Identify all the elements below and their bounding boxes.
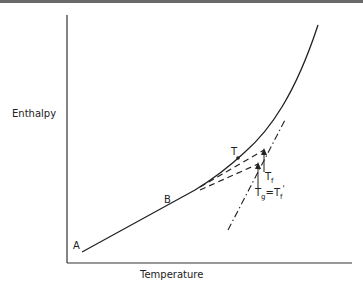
x-axis-label: Temperature [139, 269, 203, 280]
label-a: A [73, 240, 80, 251]
label-t: T [230, 146, 238, 157]
label-b: B [164, 194, 171, 205]
enthalpy-temperature-diagram: Enthalpy Temperature A B T Tf Tg=Tf' [0, 0, 363, 287]
dashed-line-tg [200, 164, 258, 190]
label-tg-eq-tf-prime: Tg=Tf' [254, 185, 285, 201]
label-tf: Tf [264, 171, 274, 185]
enthalpy-curve [82, 25, 318, 252]
y-axis-label: Enthalpy [12, 108, 56, 119]
